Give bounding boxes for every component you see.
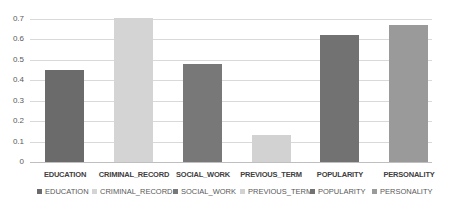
legend-label: POPULARITY [318,187,366,196]
legend-item: POPULARITY [310,187,366,196]
legend-label: PERSONALITY [380,187,433,196]
bar-popularity [320,35,359,162]
legend-swatch-icon [37,189,42,194]
bar-criminal-record [114,18,153,162]
y-tick-label: 0.4 [0,75,24,85]
y-tick-label: 0 [0,157,24,167]
legend-item: PREVIOUS_TERM [240,187,312,196]
legend-swatch-icon [92,189,97,194]
legend-item: PERSONALITY [372,187,433,196]
gridline-0.5 [30,60,432,61]
legend-item: CRIMINAL_RECORD [92,187,173,196]
y-tick-label: 0.5 [0,55,24,65]
bar-previous-term [252,135,291,162]
legend-swatch-icon [173,189,178,194]
y-tick-label: 0.3 [0,96,24,106]
y-tick-label: 0.2 [0,116,24,126]
gridline-0.3 [30,101,432,102]
gridline-0.2 [30,121,432,122]
legend-item: EDUCATION [37,187,89,196]
gridline-0.7 [30,19,432,20]
y-tick-label: 0.7 [0,14,24,24]
legend-label: CRIMINAL_RECORD [100,187,173,196]
bar-personality [389,25,428,162]
legend-label: EDUCATION [45,187,89,196]
legend-swatch-icon [372,189,377,194]
bar-chart: 0.7 0.6 0.5 0.4 0.3 0.2 0.1 0 EDUCATION … [0,0,450,209]
legend-label: SOCIAL_WORK [181,187,236,196]
bar-social-work [183,64,222,162]
gridline-0.4 [30,80,432,81]
legend-swatch-icon [310,189,315,194]
bar-education [45,70,84,162]
gridline-0.6 [30,39,432,40]
y-tick-label: 0.1 [0,137,24,147]
y-tick-label: 0.6 [0,34,24,44]
legend: EDUCATION CRIMINAL_RECORD SOCIAL_WORK PR… [0,187,450,199]
x-axis-line [30,162,432,163]
gridline-0.1 [30,142,432,143]
legend-swatch-icon [240,189,245,194]
category-label: PERSONALITY [364,170,450,179]
legend-item: SOCIAL_WORK [173,187,236,196]
legend-label: PREVIOUS_TERM [248,187,312,196]
